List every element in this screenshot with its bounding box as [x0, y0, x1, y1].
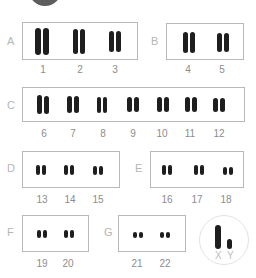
chromosome-pair-18 — [223, 167, 233, 175]
chromosome-number-8: 8 — [100, 128, 106, 139]
group-box-e — [150, 151, 244, 188]
chromosome-number-5: 5 — [219, 64, 225, 75]
chromosome-number-16: 16 — [161, 194, 172, 205]
chromosome-number-1: 1 — [40, 64, 46, 75]
chromosome-pair-20 — [64, 230, 74, 238]
chromosome-number-19: 19 — [36, 258, 47, 269]
chromosome-pair-10 — [157, 97, 169, 112]
chromosome-number-21: 21 — [131, 258, 142, 269]
x-label: X — [215, 250, 222, 261]
chromosome-pair-19 — [37, 230, 47, 238]
group-box-g — [118, 215, 186, 252]
chromosome-pair-16 — [162, 165, 172, 175]
group-box-d — [22, 151, 120, 188]
chromosome-pair-11 — [185, 97, 197, 112]
group-box-a — [22, 22, 138, 60]
group-box-f — [22, 215, 89, 252]
chromosome-pair-12 — [213, 98, 225, 112]
chromosome-pair-2 — [73, 29, 85, 54]
chromosome-number-15: 15 — [92, 194, 103, 205]
chromosome-pair-6 — [37, 95, 49, 114]
chromosome-pair-1 — [35, 28, 49, 55]
chromosome-number-6: 6 — [41, 128, 47, 139]
group-label-c: C — [7, 99, 15, 111]
chromosome-number-10: 10 — [156, 128, 167, 139]
group-label-a: A — [7, 35, 14, 47]
group-label-d: D — [7, 162, 15, 174]
group-label-e: E — [135, 162, 142, 174]
chromosome-number-7: 7 — [70, 128, 76, 139]
chromosome-number-9: 9 — [130, 128, 136, 139]
chromosome-number-18: 18 — [220, 194, 231, 205]
chromosome-pair-4 — [183, 32, 195, 53]
chromosome-pair-15 — [93, 166, 103, 175]
chromosome-number-20: 20 — [62, 258, 73, 269]
chromosome-pair-3 — [109, 31, 121, 52]
chromosome-pair-7 — [67, 96, 79, 113]
group-box-b — [166, 23, 244, 60]
chromosome-number-4: 4 — [185, 64, 191, 75]
group-box-c — [22, 87, 245, 122]
group-label-b: B — [151, 35, 158, 47]
chromosome-pair-9 — [127, 97, 139, 112]
chromosome-pair-21 — [133, 232, 143, 238]
sex-chromosome-circle: X Y — [199, 215, 249, 265]
y-label: Y — [227, 250, 234, 261]
chromosome-number-12: 12 — [213, 128, 224, 139]
x-chromosome — [215, 225, 221, 249]
chromosome-number-2: 2 — [77, 64, 83, 75]
chromosome-pair-8 — [97, 97, 107, 113]
chromosome-pair-14 — [64, 165, 74, 175]
decorative-circle — [28, 0, 62, 6]
chromosome-pair-17 — [194, 165, 204, 175]
chromosome-number-14: 14 — [64, 194, 75, 205]
chromosome-pair-13 — [36, 165, 46, 175]
chromosome-number-22: 22 — [159, 258, 170, 269]
group-label-f: F — [7, 226, 14, 238]
chromosome-pair-5 — [217, 33, 229, 52]
chromosome-number-13: 13 — [36, 194, 47, 205]
group-label-g: G — [104, 226, 113, 238]
chromosome-pair-22 — [160, 232, 170, 238]
y-chromosome — [227, 239, 232, 249]
chromosome-number-17: 17 — [191, 194, 202, 205]
chromosome-number-3: 3 — [112, 64, 118, 75]
chromosome-number-11: 11 — [185, 128, 195, 139]
